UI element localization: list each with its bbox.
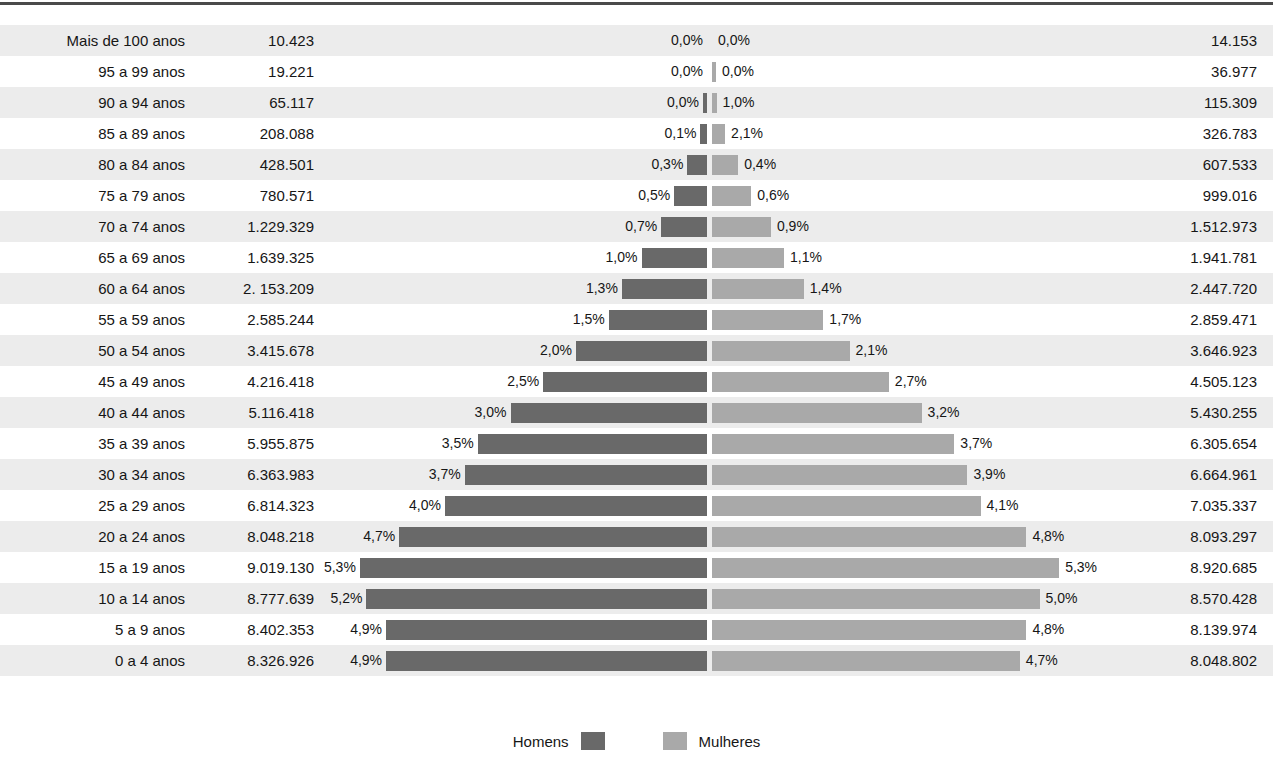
female-percent-label: 4,1% (987, 490, 1035, 521)
female-count-value: 326.783 (1117, 118, 1257, 149)
age-group-label: 45 a 49 anos (0, 366, 185, 397)
age-group-label: 95 a 99 anos (0, 56, 185, 87)
male-bar (366, 589, 707, 609)
male-percent-label: 3,7% (413, 459, 461, 490)
age-group-label: 20 a 24 anos (0, 521, 185, 552)
female-bar (712, 93, 717, 113)
male-percent-label: 4,9% (334, 645, 382, 676)
chart-row: 70 a 74 anos1.229.3291.512.9730,7%0,9% (0, 211, 1273, 242)
female-count-value: 2.859.471 (1117, 304, 1257, 335)
male-percent-label: 0,0% (655, 56, 703, 87)
chart-row: 95 a 99 anos19.22136.9770,0%0,0% (0, 56, 1273, 87)
male-count-value: 6.814.323 (196, 490, 314, 521)
bar-area: 0,0%0,0% (0, 25, 1273, 56)
chart-row: 40 a 44 anos5.116.4185.430.2553,0%3,2% (0, 397, 1273, 428)
female-bar (712, 62, 716, 82)
female-percent-label: 4,7% (1026, 645, 1074, 676)
male-bar (642, 248, 708, 268)
female-bar (712, 310, 823, 330)
female-bar (712, 465, 967, 485)
age-group-label: 40 a 44 anos (0, 397, 185, 428)
female-bar (712, 248, 784, 268)
chart-row: 0 a 4 anos8.326.9268.048.8024,9%4,7% (0, 645, 1273, 676)
female-bar (712, 279, 804, 299)
male-bar (661, 217, 707, 237)
legend-swatch-homens (581, 732, 605, 750)
legend-item-mulheres: Mulheres (663, 732, 761, 750)
male-count-value: 1.639.325 (196, 242, 314, 273)
male-count-value: 4.216.418 (196, 366, 314, 397)
age-group-label: 85 a 89 anos (0, 118, 185, 149)
female-bar (712, 651, 1020, 671)
male-count-value: 3.415.678 (196, 335, 314, 366)
male-bar (386, 620, 707, 640)
age-group-label: 15 a 19 anos (0, 552, 185, 583)
age-group-label: 90 a 94 anos (0, 87, 185, 118)
age-group-label: 30 a 34 anos (0, 459, 185, 490)
male-percent-label: 0,0% (651, 87, 699, 118)
male-bar (622, 279, 707, 299)
female-count-value: 1.512.973 (1117, 211, 1257, 242)
top-divider (0, 2, 1273, 5)
female-percent-label: 0,0% (722, 56, 770, 87)
male-bar (609, 310, 707, 330)
chart-row: 90 a 94 anos65.117115.3090,0%1,0% (0, 87, 1273, 118)
female-count-value: 8.093.297 (1117, 521, 1257, 552)
female-bar (712, 124, 725, 144)
female-count-value: 14.153 (1117, 25, 1257, 56)
male-percent-label: 0,7% (609, 211, 657, 242)
chart-legend: Homens Mulheres (0, 726, 1273, 756)
female-percent-label: 0,0% (718, 25, 766, 56)
male-count-value: 5.116.418 (196, 397, 314, 428)
female-count-value: 8.920.685 (1117, 552, 1257, 583)
bar-area: 0,0%1,0% (0, 87, 1273, 118)
male-percent-label: 0,3% (635, 149, 683, 180)
bar-area: 0,5%0,6% (0, 180, 1273, 211)
chart-row: 20 a 24 anos8.048.2188.093.2974,7%4,8% (0, 521, 1273, 552)
bar-area: 3,5%3,7% (0, 428, 1273, 459)
male-bar (674, 186, 707, 206)
female-percent-label: 1,0% (723, 87, 771, 118)
male-count-value: 428.501 (196, 149, 314, 180)
female-count-value: 7.035.337 (1117, 490, 1257, 521)
male-percent-label: 2,5% (491, 366, 539, 397)
bar-area: 2,5%2,7% (0, 366, 1273, 397)
chart-row: 80 a 84 anos428.501607.5330,3%0,4% (0, 149, 1273, 180)
legend-label-homens: Homens (513, 733, 569, 750)
chart-row: 55 a 59 anos2.585.2442.859.4711,5%1,7% (0, 304, 1273, 335)
male-bar (700, 124, 707, 144)
female-count-value: 6.664.961 (1117, 459, 1257, 490)
female-bar (712, 558, 1059, 578)
male-bar (399, 527, 707, 547)
male-count-value: 10.423 (196, 25, 314, 56)
male-bar (511, 403, 708, 423)
male-bar (445, 496, 707, 516)
legend-label-mulheres: Mulheres (699, 733, 761, 750)
female-count-value: 8.048.802 (1117, 645, 1257, 676)
female-count-value: 36.977 (1117, 56, 1257, 87)
female-bar (712, 217, 771, 237)
male-percent-label: 5,3% (308, 552, 356, 583)
male-count-value: 8.402.353 (196, 614, 314, 645)
age-group-label: 65 a 69 anos (0, 242, 185, 273)
age-group-label: 55 a 59 anos (0, 304, 185, 335)
bar-area: 0,7%0,9% (0, 211, 1273, 242)
chart-row: 45 a 49 anos4.216.4184.505.1232,5%2,7% (0, 366, 1273, 397)
female-bar (712, 496, 981, 516)
female-percent-label: 2,1% (856, 335, 904, 366)
male-percent-label: 2,0% (524, 335, 572, 366)
female-bar (712, 527, 1026, 547)
age-group-label: Mais de 100 anos (0, 25, 185, 56)
male-percent-label: 4,9% (334, 614, 382, 645)
male-count-value: 6.363.983 (196, 459, 314, 490)
legend-item-homens: Homens (513, 732, 605, 750)
female-count-value: 2.447.720 (1117, 273, 1257, 304)
female-count-value: 8.139.974 (1117, 614, 1257, 645)
male-bar (478, 434, 707, 454)
female-count-value: 6.305.654 (1117, 428, 1257, 459)
female-percent-label: 5,3% (1065, 552, 1113, 583)
female-bar (712, 155, 738, 175)
male-bar (576, 341, 707, 361)
chart-row: 35 a 39 anos5.955.8756.305.6543,5%3,7% (0, 428, 1273, 459)
female-bar (712, 620, 1026, 640)
